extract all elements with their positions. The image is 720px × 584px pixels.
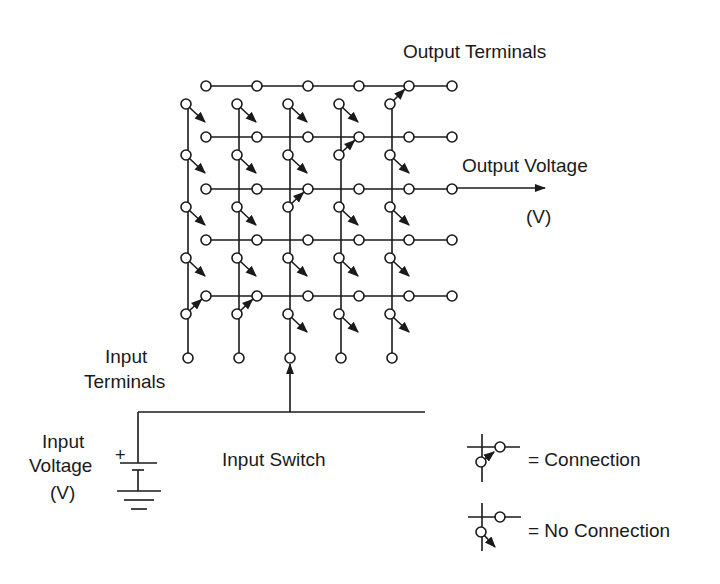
switch-node-open bbox=[334, 99, 344, 109]
input-switch-label: Input Switch bbox=[222, 449, 326, 470]
switch-node-open bbox=[334, 253, 344, 263]
switch-connected-arrow bbox=[241, 300, 253, 311]
switch-open-arrow bbox=[394, 159, 410, 174]
switch-connected-arrow bbox=[394, 90, 405, 101]
legend-no-connection-label: = No Connection bbox=[528, 520, 670, 541]
switch-open-arrow bbox=[343, 211, 359, 226]
switch-node-open bbox=[283, 99, 293, 109]
output-terminal bbox=[252, 235, 262, 245]
legend-no-connection-symbol-icon bbox=[468, 503, 521, 551]
output-terminal bbox=[447, 132, 457, 142]
switch-open-arrow bbox=[292, 318, 308, 333]
switch-open-arrow bbox=[394, 318, 410, 333]
switch-node-open bbox=[334, 309, 344, 319]
output-terminal bbox=[201, 132, 211, 142]
output-terminals-label: Output Terminals bbox=[403, 41, 546, 62]
output-terminal bbox=[252, 291, 262, 301]
switch-node-open bbox=[334, 202, 344, 212]
switch-node-open bbox=[385, 202, 395, 212]
output-terminal bbox=[201, 235, 211, 245]
switch-node-connected bbox=[181, 309, 191, 319]
output-row bbox=[201, 81, 457, 91]
switch-node-open bbox=[283, 309, 293, 319]
input-column bbox=[385, 90, 409, 364]
input-terminal bbox=[336, 353, 346, 363]
switch-node-open bbox=[385, 253, 395, 263]
switch-node-open bbox=[181, 202, 191, 212]
switch-open-arrow bbox=[241, 108, 257, 123]
switch-node-connected bbox=[334, 150, 344, 160]
input-voltage-label-line2: Voltage bbox=[29, 455, 92, 476]
output-terminal bbox=[252, 132, 262, 142]
switch-open-arrow bbox=[343, 262, 359, 277]
input-terminal bbox=[234, 353, 244, 363]
switch-node-open bbox=[283, 253, 293, 263]
legend: = Connection = No Connection bbox=[467, 434, 670, 551]
output-terminal bbox=[354, 81, 364, 91]
output-terminal bbox=[404, 81, 414, 91]
switch-open-arrow bbox=[394, 211, 410, 226]
switch-open-arrow bbox=[241, 159, 257, 174]
output-terminal bbox=[447, 291, 457, 301]
switch-connected-arrow bbox=[292, 193, 304, 204]
switch-node-open bbox=[283, 150, 293, 160]
switch-node-open bbox=[181, 253, 191, 263]
output-terminal bbox=[252, 184, 262, 194]
output-terminal bbox=[201, 291, 211, 301]
ground-icon bbox=[117, 491, 161, 509]
output-terminal bbox=[201, 81, 211, 91]
switch-open-arrow bbox=[241, 262, 257, 277]
switch-node-connected bbox=[385, 99, 395, 109]
output-terminal bbox=[447, 81, 457, 91]
switch-connected-arrow bbox=[190, 300, 202, 311]
input-voltage-unit: (V) bbox=[50, 482, 75, 503]
output-terminal bbox=[354, 291, 364, 301]
output-terminal bbox=[354, 132, 364, 142]
output-voltage-label: Output Voltage bbox=[462, 155, 588, 176]
switch-open-arrow bbox=[190, 108, 206, 123]
output-terminal bbox=[201, 184, 211, 194]
input-switch bbox=[138, 364, 425, 412]
output-terminal bbox=[354, 184, 364, 194]
switch-open-arrow bbox=[241, 211, 257, 226]
output-terminal bbox=[354, 235, 364, 245]
output-terminal bbox=[303, 132, 313, 142]
output-terminal bbox=[303, 81, 313, 91]
output-voltage-unit: (V) bbox=[526, 206, 551, 227]
switch-open-arrow bbox=[343, 318, 359, 333]
switch-node-connected bbox=[283, 202, 293, 212]
switch-open-arrow bbox=[292, 108, 308, 123]
switch-open-arrow bbox=[190, 159, 206, 174]
switch-node-open bbox=[385, 150, 395, 160]
switch-node-open bbox=[232, 253, 242, 263]
switch-open-arrow bbox=[394, 262, 410, 277]
battery-icon bbox=[120, 412, 157, 491]
legend-connection-label: = Connection bbox=[528, 449, 641, 470]
output-terminal bbox=[447, 235, 457, 245]
switch-open-arrow bbox=[292, 262, 308, 277]
switch-open-arrow bbox=[190, 211, 206, 226]
input-terminal bbox=[183, 353, 193, 363]
input-voltage-label-line1: Input bbox=[42, 431, 85, 452]
output-terminal bbox=[404, 132, 414, 142]
output-terminal bbox=[404, 291, 414, 301]
output-terminal bbox=[303, 291, 313, 301]
output-terminal bbox=[404, 235, 414, 245]
input-columns bbox=[181, 90, 409, 364]
switch-connected-arrow bbox=[343, 141, 355, 152]
input-terminals-label-line1: Input bbox=[105, 346, 148, 367]
switch-node-open bbox=[232, 99, 242, 109]
legend-connection-symbol-icon bbox=[467, 434, 520, 482]
output-terminal bbox=[303, 235, 313, 245]
switch-node-open bbox=[232, 202, 242, 212]
output-terminal bbox=[447, 184, 457, 194]
output-terminal bbox=[252, 81, 262, 91]
switch-node-open bbox=[181, 99, 191, 109]
switch-matrix-diagram: Output Terminals Output Voltage (V) Inpu… bbox=[0, 0, 720, 584]
switch-node-open bbox=[181, 150, 191, 160]
switch-open-arrow bbox=[292, 159, 308, 174]
input-terminal bbox=[285, 353, 295, 363]
output-terminal bbox=[404, 184, 414, 194]
switch-open-arrow bbox=[343, 108, 359, 123]
output-terminal bbox=[303, 184, 313, 194]
